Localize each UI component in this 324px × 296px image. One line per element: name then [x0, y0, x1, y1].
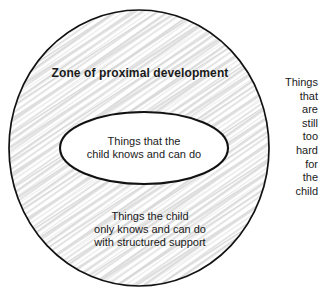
- zpd-diagram: Zone of proximal development Things that…: [0, 0, 324, 296]
- inner-ellipse-label: Things that the child knows and can do: [60, 135, 228, 161]
- zone-title: Zone of proximal development: [0, 66, 280, 80]
- outer-circle-label: Things the child only knows and can do w…: [60, 210, 240, 249]
- outside-region-label: Things that are still too hard for the c…: [262, 76, 318, 198]
